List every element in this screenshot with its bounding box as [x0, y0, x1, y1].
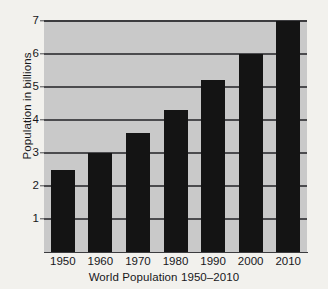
y-tick-label-1: 1 — [33, 213, 39, 225]
y-tick-mark-1 — [40, 218, 44, 219]
y-tick-mark-4 — [40, 119, 44, 120]
plot-area: 1234567 — [44, 21, 307, 252]
gridline-y-7 — [44, 20, 307, 22]
bar-2010 — [276, 21, 300, 252]
x-tick-label-2010: 2010 — [265, 255, 311, 267]
y-axis-title: Population in billions — [21, 16, 33, 196]
gridline-y-5 — [44, 86, 307, 87]
bar-1980 — [164, 110, 188, 252]
bar-chart: Population in billions 1234567 World Pop… — [0, 0, 328, 289]
gridline-y-6 — [44, 53, 307, 54]
bar-2000 — [239, 54, 263, 252]
y-tick-label-4: 4 — [33, 114, 39, 126]
y-tick-label-3: 3 — [33, 147, 39, 159]
y-tick-mark-5 — [40, 86, 44, 87]
y-tick-label-2: 2 — [33, 180, 39, 192]
bar-1950 — [51, 170, 75, 253]
y-tick-mark-7 — [40, 20, 44, 21]
chart-title: World Population 1950–2010 — [0, 271, 328, 283]
y-tick-mark-3 — [40, 152, 44, 153]
bar-1960 — [88, 153, 112, 252]
bar-1970 — [126, 133, 150, 252]
y-tick-label-7: 7 — [33, 15, 39, 27]
y-tick-mark-6 — [40, 53, 44, 54]
bar-1990 — [201, 80, 225, 252]
x-axis-baseline — [44, 252, 308, 254]
y-tick-mark-2 — [40, 185, 44, 186]
y-tick-label-6: 6 — [33, 48, 39, 60]
y-tick-label-5: 5 — [33, 81, 39, 93]
